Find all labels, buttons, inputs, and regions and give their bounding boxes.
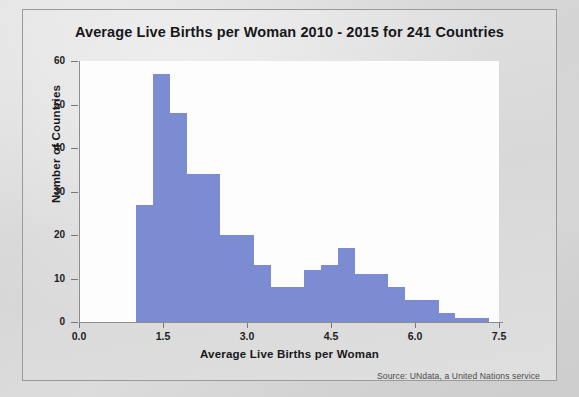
y-tick-label: 0 bbox=[25, 316, 65, 327]
chart-title: Average Live Births per Woman 2010 - 201… bbox=[23, 24, 556, 40]
x-tick-mark bbox=[331, 323, 332, 328]
histogram-bar bbox=[388, 287, 405, 322]
histogram-bar bbox=[439, 313, 456, 322]
y-tick-mark bbox=[71, 192, 78, 193]
x-tick-label: 7.5 bbox=[479, 330, 519, 342]
x-axis-line bbox=[79, 322, 503, 323]
histogram-bar bbox=[254, 265, 271, 322]
plot-area bbox=[79, 61, 499, 322]
histogram-bar bbox=[287, 287, 304, 322]
histogram-bar bbox=[355, 274, 372, 322]
x-axis-title: Average Live Births per Woman bbox=[23, 348, 556, 360]
histogram-bar bbox=[405, 300, 422, 322]
x-tick-mark bbox=[247, 323, 248, 328]
x-tick-label: 1.5 bbox=[143, 330, 183, 342]
y-axis-line bbox=[79, 61, 80, 323]
y-tick-label: 20 bbox=[25, 229, 65, 240]
y-tick-label: 40 bbox=[25, 142, 65, 153]
histogram-bar bbox=[220, 235, 237, 322]
histogram-bar bbox=[203, 174, 220, 322]
y-tick-mark bbox=[71, 61, 78, 62]
histogram-bars bbox=[79, 61, 499, 322]
histogram-bar bbox=[187, 174, 204, 322]
histogram-bar bbox=[153, 74, 170, 322]
chart-figure-panel: Average Live Births per Woman 2010 - 201… bbox=[22, 9, 557, 381]
x-tick-mark bbox=[415, 323, 416, 328]
y-tick-label: 50 bbox=[25, 99, 65, 110]
y-tick-mark bbox=[71, 279, 78, 280]
x-tick-mark bbox=[79, 323, 80, 328]
histogram-bar bbox=[422, 300, 439, 322]
x-tick-label: 6.0 bbox=[395, 330, 435, 342]
histogram-bar bbox=[371, 274, 388, 322]
y-tick-label: 60 bbox=[25, 55, 65, 66]
histogram-bar bbox=[136, 205, 153, 322]
y-tick-mark bbox=[71, 105, 78, 106]
x-tick-mark bbox=[499, 323, 500, 328]
histogram-bar bbox=[338, 248, 355, 322]
y-tick-label: 30 bbox=[25, 186, 65, 197]
y-tick-label: 10 bbox=[25, 273, 65, 284]
x-tick-label: 3.0 bbox=[227, 330, 267, 342]
y-tick-mark bbox=[71, 322, 78, 323]
x-tick-label: 0.0 bbox=[59, 330, 99, 342]
histogram-bar bbox=[170, 113, 187, 322]
y-tick-mark bbox=[71, 148, 78, 149]
histogram-bar bbox=[237, 235, 254, 322]
x-tick-mark bbox=[163, 323, 164, 328]
x-tick-label: 4.5 bbox=[311, 330, 351, 342]
histogram-bar bbox=[271, 287, 288, 322]
histogram-bar bbox=[321, 265, 338, 322]
source-note: Source: UNdata, a United Nations service bbox=[377, 371, 540, 381]
histogram-bar bbox=[304, 270, 321, 322]
y-tick-mark bbox=[71, 235, 78, 236]
